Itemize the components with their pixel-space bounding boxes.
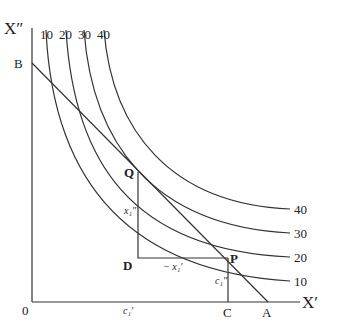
- indifference-curve-10: [46, 30, 290, 281]
- point-p-label: P: [230, 252, 238, 265]
- diagram-canvas: [0, 0, 339, 326]
- indifference-curve-20: [66, 30, 290, 257]
- curve-label-top-30: 30: [78, 28, 91, 41]
- point-a-label: A: [262, 306, 271, 319]
- origin-label: 0: [22, 304, 29, 317]
- curve-label-right-20: 20: [294, 251, 307, 264]
- indifference-curve-40: [104, 30, 290, 209]
- point-c-label: C: [223, 306, 232, 319]
- curve-label-top-40: 40: [97, 28, 110, 41]
- point-b-label: B: [14, 57, 23, 70]
- curve-label-right-10: 10: [294, 275, 307, 288]
- vertical-change-label: x₁″: [124, 206, 136, 216]
- curve-label-right-40: 40: [294, 203, 307, 216]
- curve-label-right-30: 30: [294, 227, 307, 240]
- horizontal-change-label: − x₁′: [163, 262, 182, 272]
- point-q-label: Q: [124, 166, 134, 179]
- x-axis-label: X′: [302, 294, 318, 311]
- curve-label-top-10: 10: [40, 28, 53, 41]
- curve-label-top-20: 20: [59, 28, 72, 41]
- y-axis-label: X″: [4, 20, 23, 37]
- indifference-curve-30: [84, 30, 290, 233]
- c-prime-label: c₁′: [123, 306, 133, 316]
- point-d-label: D: [123, 259, 132, 272]
- c-double-prime-label: c₁″: [215, 276, 227, 286]
